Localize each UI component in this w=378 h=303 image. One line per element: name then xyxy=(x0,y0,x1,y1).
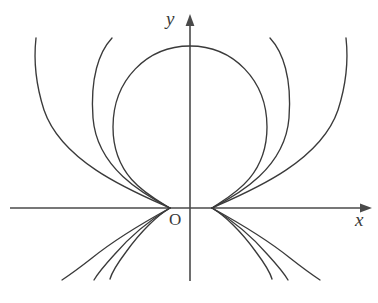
y-axis-label: y xyxy=(166,9,174,28)
curve-lower-arc-1-mirror xyxy=(212,208,272,279)
curve-upper-arc-1 xyxy=(92,38,170,208)
curve-upper-arc-1-mirror xyxy=(212,38,290,208)
curve-upper-arc-2 xyxy=(35,38,170,208)
curve-upper-arc-2-mirror xyxy=(212,38,347,208)
curve-family-plot xyxy=(0,0,378,303)
x-axis-label: x xyxy=(355,210,363,229)
y-axis-arrowhead xyxy=(186,14,195,26)
curve-family-group xyxy=(35,38,347,280)
axes-group xyxy=(10,14,372,281)
origin-label: O xyxy=(169,211,181,228)
curve-lower-arc-1 xyxy=(110,208,170,279)
figure-canvas: y x O xyxy=(0,0,378,303)
